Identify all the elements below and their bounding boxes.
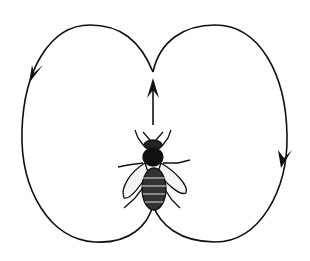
left-arrowhead-icon (29, 65, 43, 83)
right-loop-path (153, 25, 287, 242)
waggle-dance-diagram (0, 0, 310, 261)
bee-icon (118, 130, 190, 210)
left-loop-path (22, 25, 153, 242)
